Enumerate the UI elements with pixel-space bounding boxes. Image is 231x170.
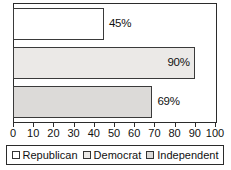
bar-value-label: 90% (167, 57, 189, 69)
chart-legend: RepublicanDemocratIndependent (6, 145, 224, 165)
x-axis-tick-label: 80 (168, 128, 180, 139)
legend-label: Independent (157, 150, 218, 161)
bar-value-label: 45% (109, 18, 131, 30)
x-axis-tick-label: 90 (189, 128, 201, 139)
legend-swatch-icon (146, 151, 154, 159)
x-axis-tick-label: 70 (148, 128, 160, 139)
x-axis-tick-label: 0 (10, 128, 16, 139)
bar-value-label: 69% (157, 96, 179, 108)
bar-row: 90% (13, 47, 215, 79)
legend-label: Republican (23, 150, 78, 161)
legend-item-democrat: Democrat (83, 150, 142, 161)
legend-swatch-icon (83, 151, 91, 159)
x-axis-tick-label: 40 (88, 128, 100, 139)
bar-chart: 45%90%69% 0102030405060708090100 Republi… (0, 0, 231, 170)
bar-republican: 45% (13, 8, 104, 40)
bar-democrat: 90% (13, 47, 195, 79)
bar-row: 45% (13, 8, 215, 40)
legend-label: Democrat (94, 150, 142, 161)
x-axis-tick-label: 20 (47, 128, 59, 139)
plot-area: 45%90%69% (13, 3, 215, 122)
legend-swatch-icon (12, 151, 20, 159)
x-axis-tick-label: 10 (27, 128, 39, 139)
x-axis-tick-label: 50 (108, 128, 120, 139)
legend-item-independent: Independent (146, 150, 218, 161)
x-axis-tick-label: 60 (128, 128, 140, 139)
bar-independent: 69% (13, 86, 152, 118)
x-axis-tick-label: 30 (67, 128, 79, 139)
legend-item-republican: Republican (12, 150, 78, 161)
bar-row: 69% (13, 86, 215, 118)
x-axis-tick-label: 100 (206, 128, 224, 139)
